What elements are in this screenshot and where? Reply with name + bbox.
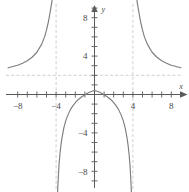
y-axis-name: y xyxy=(101,5,106,14)
graph-figure: −8−44884−4−8xy xyxy=(0,0,189,192)
x-axis-tick-label: 8 xyxy=(169,101,174,111)
y-axis-tick-label: 4 xyxy=(83,51,88,61)
curve-branch xyxy=(134,0,181,68)
x-axis-tick-label: −8 xyxy=(13,101,23,111)
coordinate-plane: −8−44884−4−8xy xyxy=(0,0,189,192)
curve-branch xyxy=(8,0,55,68)
y-axis-tick-label: −8 xyxy=(78,167,88,177)
y-axis-tick-label: 8 xyxy=(83,13,88,23)
x-axis-name: x xyxy=(178,82,183,91)
x-axis-tick-label: −4 xyxy=(51,101,61,111)
x-axis-tick-label: 4 xyxy=(131,101,136,111)
y-axis-tick-label: −4 xyxy=(78,128,88,138)
x-axis-arrow xyxy=(180,91,188,97)
